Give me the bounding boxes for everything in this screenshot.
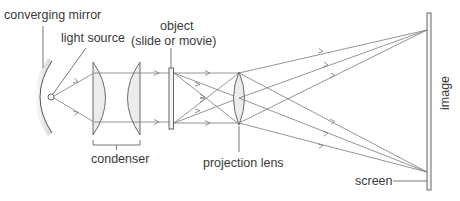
light-source bbox=[48, 94, 54, 100]
screen bbox=[427, 13, 431, 190]
object-rays bbox=[174, 71, 239, 126]
condenser-bracket bbox=[93, 140, 140, 150]
projection-lens-label: projection lens bbox=[203, 156, 284, 170]
object-label-line2: (slide or movie) bbox=[131, 34, 216, 48]
object-label-line1: object bbox=[160, 19, 194, 33]
light-source-label: light source bbox=[61, 31, 125, 45]
object-slide bbox=[169, 68, 174, 129]
projector-diagram: converging mirror light source condenser… bbox=[0, 0, 460, 201]
image-label: image bbox=[438, 76, 452, 110]
projection-lens bbox=[234, 72, 245, 125]
image-rays bbox=[239, 30, 427, 172]
condenser-label: condenser bbox=[91, 152, 149, 166]
mirror-label: converging mirror bbox=[4, 8, 101, 22]
source-rays bbox=[54, 73, 94, 122]
screen-label: screen bbox=[355, 174, 393, 188]
